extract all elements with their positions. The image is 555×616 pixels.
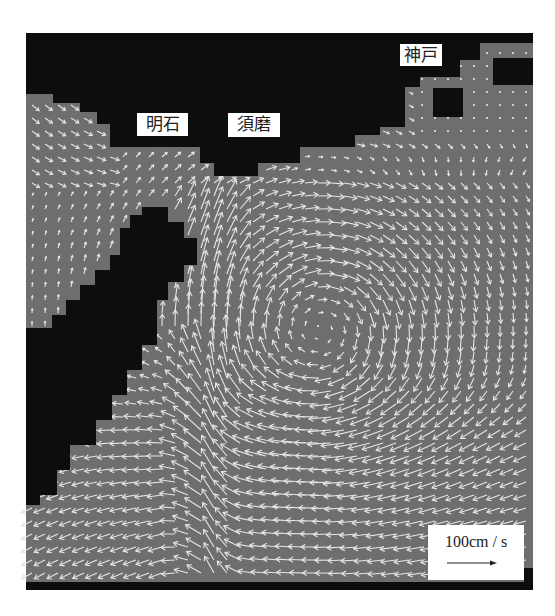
land-bottom_band xyxy=(26,582,533,590)
right-arrow-icon xyxy=(447,559,497,567)
place-label-kobe: 神戸 xyxy=(400,44,442,66)
current-vector-map xyxy=(0,0,555,616)
land-kobe_island_2 xyxy=(493,58,533,85)
place-label-akashi: 明石 xyxy=(137,113,188,136)
scale-legend-text: 100cm / s xyxy=(428,533,524,551)
land-kobe_island_1 xyxy=(433,88,463,117)
land-bottom_right_band xyxy=(524,568,533,582)
scale-legend: 100cm / s xyxy=(428,525,524,580)
place-label-suma: 須磨 xyxy=(228,113,280,137)
